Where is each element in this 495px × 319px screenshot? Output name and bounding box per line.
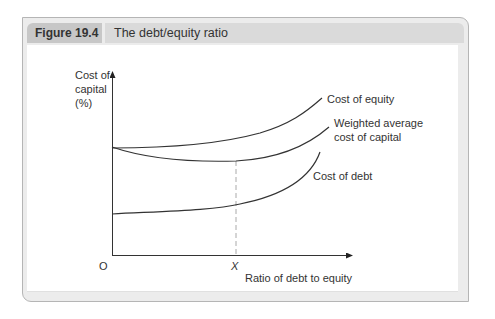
origin-label: O (99, 260, 108, 272)
y-axis-label-line1: Cost of (75, 69, 111, 81)
y-axis-label-line3: (%) (75, 97, 92, 109)
y-axis-label-line2: capital (75, 83, 107, 95)
label-cost-of-equity: Cost of equity (327, 93, 395, 105)
label-wacc-line1: Weighted average (334, 117, 423, 129)
label-wacc-line2: cost of capital (334, 131, 401, 143)
wacc-curve (112, 127, 329, 161)
x-marker-label: X (230, 260, 239, 272)
label-cost-of-debt: Cost of debt (313, 170, 372, 182)
cost-of-equity-curve (112, 98, 322, 148)
chart-svg: Cost of capital (%) Cost of equity Weigh… (0, 0, 495, 319)
x-axis-label: Ratio of debt to equity (245, 272, 353, 284)
